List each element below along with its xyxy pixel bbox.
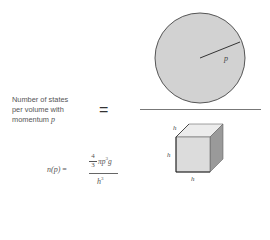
- momentum-variable: p: [51, 115, 55, 124]
- radius-label: p: [223, 54, 228, 63]
- formula-denominator: h3: [97, 176, 104, 186]
- density-formula: n(p) = 4 3 πp3g h3: [47, 153, 127, 193]
- cube-edge-label-bottom: h: [191, 175, 195, 183]
- formula-fraction-bar: [89, 173, 118, 174]
- label-line-2: per volume with: [12, 105, 68, 115]
- four-thirds-fraction: 4 3: [89, 153, 97, 169]
- formula-lhs: n(p) =: [47, 165, 67, 174]
- phase-cell-cube: [176, 124, 223, 172]
- cube-front-face: [176, 137, 210, 172]
- cube-edge-label-top: h: [173, 124, 177, 132]
- label-line-1: Number of states: [12, 95, 68, 105]
- equals-sign: =: [99, 102, 108, 118]
- label-line-3: momentum p: [12, 115, 68, 125]
- cube-edge-label-left: h: [167, 151, 171, 159]
- formula-numerator: πp3g: [98, 156, 112, 166]
- states-per-volume-label: Number of states per volume with momentu…: [12, 95, 68, 125]
